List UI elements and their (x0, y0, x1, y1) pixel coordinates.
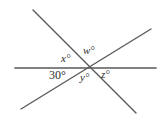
descending-line (33, 10, 136, 113)
angle-label-30-degrees: 30° (49, 69, 66, 81)
angle-label-z: z° (101, 69, 110, 80)
angle-label-x: x° (61, 53, 70, 64)
ascending-line (21, 29, 151, 109)
geometry-figure: x° w° 30° y° z° (0, 0, 167, 125)
figure-canvas (0, 0, 167, 125)
angle-label-y: y° (80, 72, 89, 83)
angle-label-w: w° (83, 45, 95, 56)
